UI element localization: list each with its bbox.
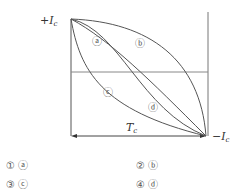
curve-label-a: ⓐ <box>92 36 102 47</box>
option-1-number: ① <box>6 160 15 171</box>
minus-ic-sub: c <box>226 136 230 144</box>
option-3-answer: ⓒ <box>18 179 28 190</box>
option-4[interactable]: ④ ⓓ <box>136 176 158 191</box>
time-arrow-left-head <box>71 134 77 138</box>
option-2-number: ② <box>136 160 145 171</box>
option-4-answer: ⓓ <box>148 179 158 190</box>
tc-label: Tc <box>126 121 137 135</box>
option-2-answer: ⓑ <box>148 160 158 171</box>
plus-ic-main: +I <box>40 14 54 27</box>
plus-ic-sub: c <box>54 20 58 28</box>
option-3[interactable]: ③ ⓒ <box>6 176 28 191</box>
curve-label-b: ⓑ <box>135 38 145 49</box>
curve-label-c: ⓒ <box>103 87 113 98</box>
commutation-diagram: ⓐ ⓑ ⓒ ⓓ +Ic −Ic Tc <box>0 0 240 192</box>
tc-sub: c <box>133 127 137 135</box>
minus-ic-main: −I <box>212 130 226 143</box>
option-1[interactable]: ① ⓐ <box>6 157 28 172</box>
option-1-answer: ⓐ <box>18 160 28 171</box>
plus-ic-label: +Ic <box>40 14 58 28</box>
minus-ic-label: −Ic <box>212 130 230 144</box>
option-3-number: ③ <box>6 179 15 190</box>
option-2[interactable]: ② ⓑ <box>136 157 158 172</box>
curve-label-d: ⓓ <box>148 102 158 113</box>
option-4-number: ④ <box>136 179 145 190</box>
